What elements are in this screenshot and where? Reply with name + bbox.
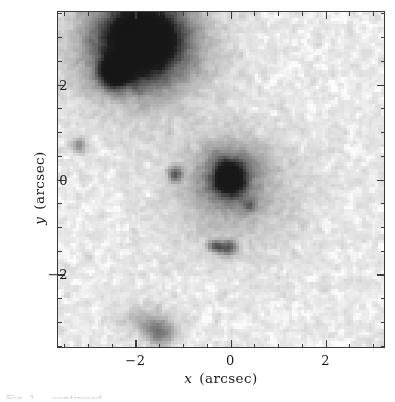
figure-caption-fragment: Fig. 1 — continued <box>6 393 186 399</box>
y-minor-tick-right <box>381 298 386 299</box>
y-axis-unit: (arcsec) <box>31 151 47 209</box>
x-minor-tick <box>88 344 89 349</box>
y-minor-tick-right <box>381 322 386 323</box>
y-minor-tick-right <box>381 156 386 157</box>
x-tick-label: −2 <box>125 353 145 368</box>
y-major-tick-right <box>377 274 385 275</box>
x-major-tick-top <box>231 11 232 19</box>
x-minor-tick <box>302 344 303 349</box>
x-minor-tick-top <box>278 11 279 16</box>
x-minor-tick <box>183 344 184 349</box>
y-major-tick-right <box>377 85 385 86</box>
y-minor-tick-right <box>381 251 386 252</box>
x-minor-tick-top <box>207 11 208 16</box>
x-major-tick-top <box>326 11 327 19</box>
y-minor-tick <box>57 156 62 157</box>
y-minor-tick-right <box>381 203 386 204</box>
x-major-tick-top <box>135 11 136 19</box>
x-minor-tick <box>159 344 160 349</box>
y-tick-label: 2 <box>59 77 68 92</box>
y-minor-tick-right <box>381 13 386 14</box>
x-minor-tick <box>207 344 208 349</box>
y-minor-tick <box>57 322 62 323</box>
y-minor-tick-right <box>381 132 386 133</box>
y-minor-tick-right <box>381 108 386 109</box>
y-minor-tick <box>57 108 62 109</box>
y-minor-tick <box>57 13 62 14</box>
x-minor-tick <box>254 344 255 349</box>
x-axis-symbol: x <box>184 370 192 386</box>
x-minor-tick <box>278 344 279 349</box>
x-minor-tick-top <box>64 11 65 16</box>
y-major-tick-right <box>377 180 385 181</box>
x-minor-tick <box>64 344 65 349</box>
y-minor-tick <box>57 203 62 204</box>
x-major-tick <box>135 340 136 348</box>
x-minor-tick <box>349 344 350 349</box>
x-minor-tick-top <box>349 11 350 16</box>
x-minor-tick <box>373 344 374 349</box>
y-minor-tick <box>57 227 62 228</box>
y-minor-tick-right <box>381 61 386 62</box>
y-minor-tick <box>57 132 62 133</box>
y-minor-tick-right <box>381 346 386 347</box>
x-axis-title: x(arcsec) <box>184 370 257 386</box>
y-axis-symbol: y <box>31 217 47 225</box>
x-tick-label: 2 <box>321 353 330 368</box>
x-minor-tick-top <box>254 11 255 16</box>
y-minor-tick-right <box>381 227 386 228</box>
y-tick-label: 0 <box>59 172 68 187</box>
y-minor-tick <box>57 37 62 38</box>
y-minor-tick <box>57 251 62 252</box>
x-minor-tick-top <box>183 11 184 16</box>
y-minor-tick <box>57 61 62 62</box>
greyscale-sky-image <box>58 12 384 347</box>
x-tick-label: 0 <box>226 353 235 368</box>
x-major-tick <box>326 340 327 348</box>
x-minor-tick-top <box>302 11 303 16</box>
x-major-tick <box>231 340 232 348</box>
y-tick-label: −2 <box>48 267 68 282</box>
image-plot-frame <box>57 11 385 348</box>
astronomical-image-figure: −20220−2 x(arcsec) y(arcsec) Fig. 1 — co… <box>0 0 395 402</box>
x-minor-tick-top <box>373 11 374 16</box>
x-minor-tick-top <box>88 11 89 16</box>
y-minor-tick <box>57 346 62 347</box>
x-minor-tick-top <box>159 11 160 16</box>
y-minor-tick <box>57 298 62 299</box>
y-axis-title: y(arcsec) <box>31 123 47 253</box>
x-axis-unit: (arcsec) <box>199 370 257 386</box>
x-minor-tick-top <box>112 11 113 16</box>
y-minor-tick-right <box>381 37 386 38</box>
x-minor-tick <box>112 344 113 349</box>
